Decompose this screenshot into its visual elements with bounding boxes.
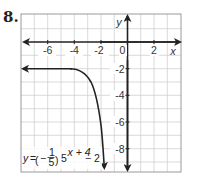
x-tick-label: 2 xyxy=(151,44,157,56)
svg-text:(: ( xyxy=(35,154,39,166)
svg-text:): ) xyxy=(55,154,59,166)
y-tick-label: -2 xyxy=(115,63,124,75)
svg-text:5: 5 xyxy=(61,152,67,164)
svg-text:5: 5 xyxy=(49,156,55,168)
graph: -6 -4 -2 0 2 x y -2 -4 -6 -8 y = ( − 1 5… xyxy=(0,0,197,185)
y-tick-label: -4 xyxy=(115,89,124,101)
svg-text:−: − xyxy=(40,152,46,164)
x-axis-label: x xyxy=(169,45,176,57)
svg-text:− 2: − 2 xyxy=(85,152,100,164)
svg-text:y: y xyxy=(22,152,29,164)
y-tick-label: -8 xyxy=(115,143,124,155)
x-tick-label: 0 xyxy=(120,44,126,56)
x-tick-label: -4 xyxy=(70,44,79,56)
y-tick-label: -6 xyxy=(115,116,124,128)
x-tick-label: -2 xyxy=(94,44,103,56)
x-tick-label: -6 xyxy=(43,44,52,56)
y-axis-label: y xyxy=(115,16,123,28)
